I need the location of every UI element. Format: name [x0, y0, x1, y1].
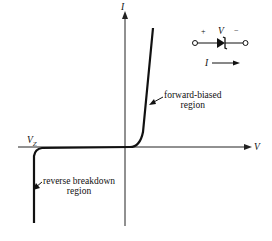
x-axis-label: V — [254, 142, 260, 152]
y-axis-label: I — [121, 2, 124, 12]
reverse-annotation: reverse breakdownregion — [43, 176, 115, 196]
y-axis-arrow-icon — [122, 11, 128, 19]
x-axis-arrow-icon — [244, 144, 252, 150]
plus-sign: + — [201, 27, 206, 37]
iv-curve-diagram — [0, 0, 272, 241]
minus-sign: − — [234, 26, 239, 36]
zener-diode-symbol — [193, 37, 249, 66]
forward-pointer-arrow-icon — [149, 99, 156, 105]
vz-label: VZ — [27, 135, 37, 149]
symbol-current-label: I — [205, 58, 208, 68]
forward-annotation: forward-biasedregion — [164, 90, 222, 110]
symbol-voltage-label: V — [218, 26, 224, 36]
